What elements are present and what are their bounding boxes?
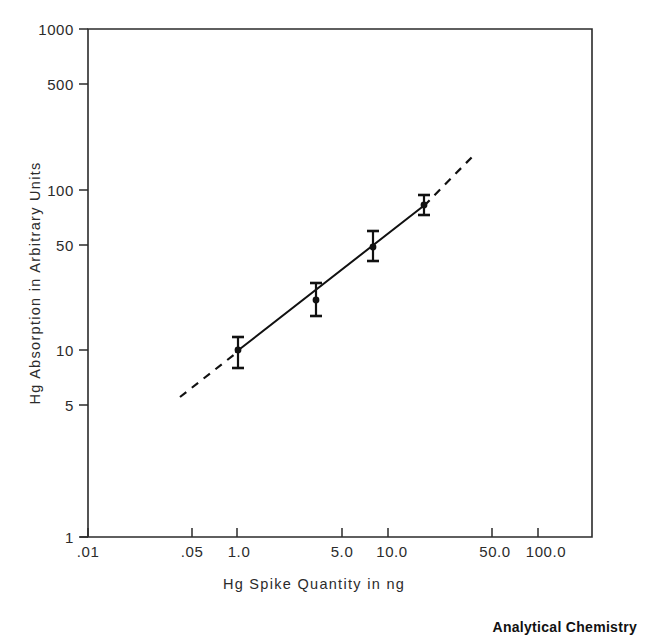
- data-point: [232, 337, 244, 368]
- fit-line: [236, 204, 426, 352]
- y-tick-label: 1000: [38, 21, 74, 38]
- x-axis-title: Hg Spike Quantity in ng: [223, 576, 405, 592]
- data-point: [310, 283, 322, 316]
- y-axis-ticks: [79, 29, 88, 537]
- x-tick-label: 50.0: [479, 543, 511, 560]
- y-tick-label: 5: [65, 397, 74, 414]
- y-axis-tick-labels: 1000 500 100 50 10 5 1: [38, 21, 74, 546]
- x-tick-label: .01: [77, 543, 100, 560]
- extrapolation-line-lower: [180, 350, 240, 397]
- extrapolation-line-upper: [424, 157, 472, 206]
- plot-frame: [88, 29, 592, 537]
- y-tick-label: 100: [47, 182, 74, 199]
- x-tick-label: 100.0: [526, 543, 567, 560]
- x-tick-label: 1.0: [228, 543, 251, 560]
- y-tick-label: 500: [47, 76, 74, 93]
- x-tick-label: .05: [181, 543, 204, 560]
- data-point: [367, 231, 379, 261]
- x-axis-ticks: [80, 528, 538, 537]
- x-axis-tick-labels: .01 .05 1.0 5.0 10.0 50.0 100.0: [77, 543, 567, 560]
- x-tick-label: 5.0: [331, 543, 354, 560]
- figure-page: 1000 500 100 50 10 5 1 .01 .05 1.0 5.0 1…: [0, 0, 651, 643]
- x-tick-label: 10.0: [376, 543, 408, 560]
- y-tick-label: 1: [65, 529, 74, 546]
- y-axis-title: Hg Absorption in Arbitrary Units: [27, 161, 43, 404]
- source-caption: Analytical Chemistry: [493, 619, 638, 635]
- y-tick-label: 10: [56, 342, 74, 359]
- calibration-chart: 1000 500 100 50 10 5 1 .01 .05 1.0 5.0 1…: [0, 0, 651, 643]
- data-point: [418, 195, 430, 215]
- y-tick-label: 50: [56, 237, 74, 254]
